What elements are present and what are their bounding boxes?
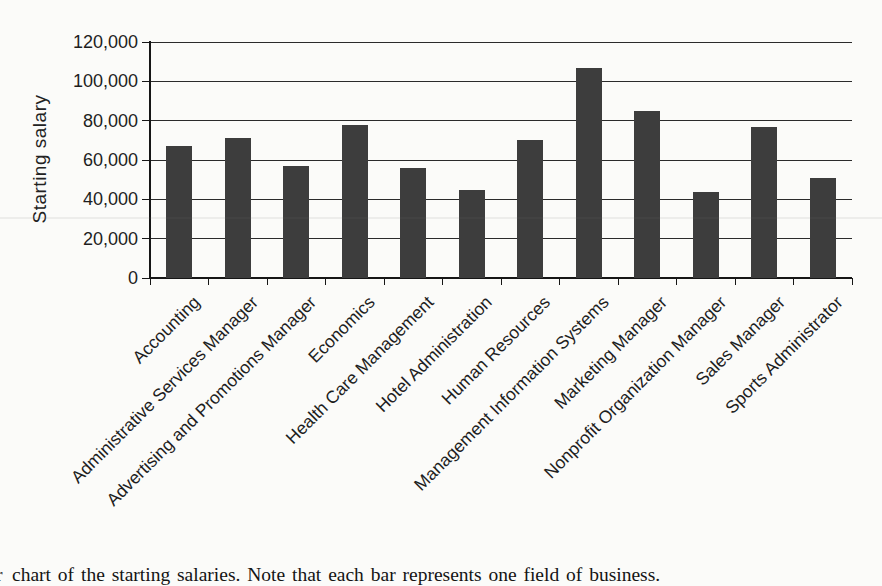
gridline-80000 [150,120,852,121]
caption-cropped-letter: r [0,564,5,586]
x-tick-mark [325,278,326,285]
y-axis-line [149,41,151,278]
bar-nonprofit-organization-manager [693,192,719,278]
x-tick-mark [150,278,151,285]
x-tick-mark [793,278,794,285]
bar-hotel-administration [459,190,485,278]
gridline-100000 [150,81,852,82]
x-tick-mark [676,278,677,285]
y-tick-label: 100,000 [48,71,138,91]
gridline-120000 [150,42,852,43]
y-tick-label: 80,000 [48,111,138,131]
x-category-label: Advertising and Promotions Manager [103,292,321,510]
scan-artifact-line [0,217,882,219]
x-tick-mark [559,278,560,285]
caption-text: chart of the starting salaries. Note tha… [12,564,660,585]
gridline-40000 [150,199,852,200]
x-tick-mark [852,278,853,285]
x-tick-mark [618,278,619,285]
y-tick-label: 0 [48,268,138,288]
bar-chart-figure: Starting salary 020,00040,00060,00080,00… [0,0,882,586]
x-tick-mark [384,278,385,285]
bar-management-information-systems [576,68,602,278]
gridline-60000 [150,160,852,161]
caption: rchart of the starting salaries. Note th… [0,564,882,586]
bar-health-care-management [400,168,426,278]
y-tick-label: 40,000 [48,189,138,209]
bar-human-resources [517,140,543,278]
bar-advertising-and-promotions-manager [283,166,309,278]
bar-sports-administrator [810,178,836,278]
y-tick-label: 60,000 [48,150,138,170]
bar-administrative-services-manager [225,138,251,278]
bar-sales-manager [751,127,777,278]
bar-accounting [166,146,192,278]
bar-economics [342,125,368,278]
x-category-label: Human Resources [438,292,555,409]
x-tick-mark [267,278,268,285]
y-tick-label: 20,000 [48,229,138,249]
x-tick-mark [442,278,443,285]
x-tick-mark [501,278,502,285]
x-tick-mark [735,278,736,285]
y-tick-label: 120,000 [48,32,138,52]
gridline-20000 [150,238,852,239]
bar-marketing-manager [634,111,660,278]
x-tick-mark [208,278,209,285]
